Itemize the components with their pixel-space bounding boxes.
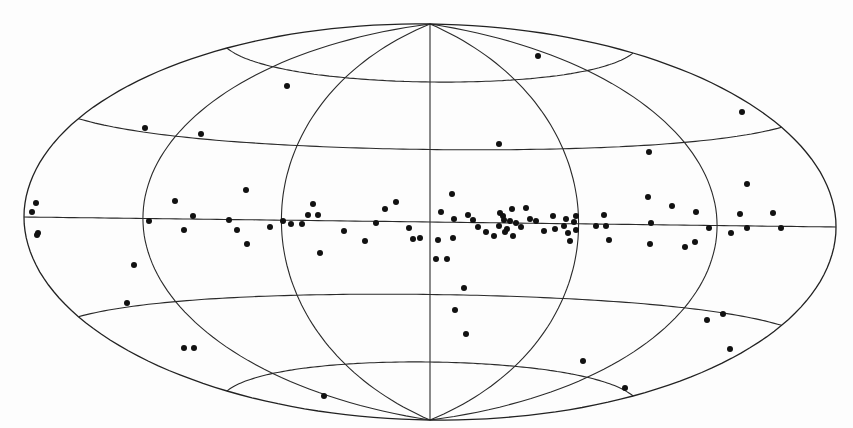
data-point [33, 200, 39, 206]
data-point [601, 212, 607, 218]
map-boundary [430, 24, 836, 420]
data-point [565, 230, 571, 236]
data-point [720, 311, 726, 317]
data-point [172, 198, 178, 204]
data-point [510, 233, 516, 239]
data-point [181, 345, 187, 351]
data-point [450, 235, 456, 241]
data-point [433, 256, 439, 262]
data-point [561, 223, 567, 229]
data-point [744, 181, 750, 187]
data-point [444, 256, 450, 262]
data-point [550, 213, 556, 219]
sky-map-figure [0, 0, 853, 428]
data-point [267, 224, 273, 230]
data-point [573, 227, 579, 233]
data-point [321, 393, 327, 399]
data-point [606, 237, 612, 243]
data-point [541, 228, 547, 234]
data-point [34, 232, 40, 238]
data-point [501, 217, 507, 223]
data-point [449, 191, 455, 197]
data-point [29, 209, 35, 215]
data-point [435, 237, 441, 243]
data-point [669, 203, 675, 209]
data-point [181, 227, 187, 233]
data-point [580, 358, 586, 364]
data-point [744, 225, 750, 231]
data-point [504, 226, 510, 232]
data-point [410, 236, 416, 242]
data-point [393, 199, 399, 205]
graticule-grid [24, 24, 836, 420]
data-point [315, 212, 321, 218]
data-point [288, 221, 294, 227]
data-point [567, 238, 573, 244]
data-point [552, 226, 558, 232]
data-point [438, 209, 444, 215]
data-point [146, 218, 152, 224]
data-point [778, 225, 784, 231]
data-point [682, 244, 688, 250]
data-point [770, 210, 776, 216]
data-point [190, 213, 196, 219]
data-point [513, 220, 519, 226]
data-point [124, 300, 130, 306]
data-point [341, 228, 347, 234]
data-point [243, 187, 249, 193]
data-point [563, 216, 569, 222]
data-point [465, 212, 471, 218]
source-points [29, 53, 784, 399]
data-point [645, 194, 651, 200]
data-point [483, 229, 489, 235]
data-point [317, 250, 323, 256]
data-point [496, 223, 502, 229]
data-point [533, 218, 539, 224]
data-point [603, 223, 609, 229]
data-point [693, 209, 699, 215]
data-point [234, 227, 240, 233]
data-point [706, 225, 712, 231]
data-point [475, 224, 481, 230]
data-point [509, 206, 515, 212]
data-point [406, 225, 412, 231]
data-point [704, 317, 710, 323]
data-point [593, 223, 599, 229]
aitoff-sky-projection [0, 0, 853, 428]
data-point [571, 219, 577, 225]
data-point [491, 233, 497, 239]
data-point [280, 218, 286, 224]
data-point [244, 241, 250, 247]
data-point [647, 241, 653, 247]
data-point [417, 235, 423, 241]
data-point [226, 217, 232, 223]
data-point [496, 141, 502, 147]
data-point [727, 346, 733, 352]
data-point [191, 345, 197, 351]
data-point [142, 125, 148, 131]
data-point [527, 216, 533, 222]
data-point [461, 285, 467, 291]
data-point [299, 221, 305, 227]
data-point [305, 212, 311, 218]
data-point [739, 109, 745, 115]
data-point [131, 262, 137, 268]
data-point [507, 218, 513, 224]
data-point [646, 149, 652, 155]
data-point [518, 224, 524, 230]
data-point [284, 83, 290, 89]
data-point [310, 201, 316, 207]
data-point [451, 216, 457, 222]
data-point [382, 206, 388, 212]
data-point [523, 205, 529, 211]
data-point [452, 307, 458, 313]
data-point [362, 238, 368, 244]
data-point [737, 211, 743, 217]
data-point [463, 331, 469, 337]
data-point [373, 220, 379, 226]
data-point [648, 220, 654, 226]
data-point [692, 239, 698, 245]
data-point [728, 230, 734, 236]
data-point [470, 217, 476, 223]
data-point [573, 213, 579, 219]
